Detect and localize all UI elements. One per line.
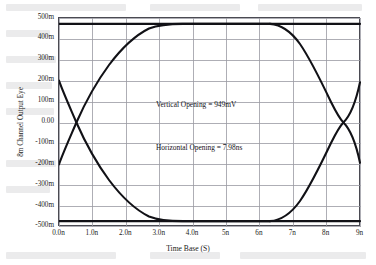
x-tick-label: 9n xyxy=(340,230,376,237)
eye-diagram-figure: Vertical Opening = 949mV Horizontal Open… xyxy=(0,0,376,265)
y-axis-title: 8m Channel Output Eye xyxy=(17,87,25,157)
eye-diagram-traces xyxy=(59,18,361,227)
trace-falling-edge-right xyxy=(270,24,360,163)
y-axis-title-container: 8m Channel Output Eye xyxy=(14,17,28,226)
annotation-horizontal-opening: Horizontal Opening = 7.98ns xyxy=(156,143,242,152)
plot-area: Vertical Opening = 949mV Horizontal Open… xyxy=(58,17,360,226)
annotation-vertical-opening: Vertical Opening = 949mV xyxy=(156,100,236,109)
trace-rising-edge-right xyxy=(270,82,360,221)
x-axis-title: Time Base (S) xyxy=(0,244,376,253)
